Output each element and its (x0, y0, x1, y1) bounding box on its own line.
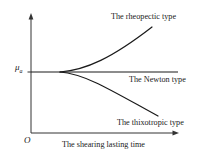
rheology-figure: The rheopectic type The Newton type The … (0, 0, 210, 158)
y-axis-label: μa (15, 63, 23, 74)
x-axis-arrowhead (173, 131, 180, 136)
origin-label: O (24, 136, 31, 145)
y-axis-arrowhead (29, 13, 34, 20)
curve-rheopectic-type (60, 27, 152, 72)
curve-label-thixotropic: The thixotropic type (117, 119, 184, 127)
x-axis-label: The shearing lasting time (62, 141, 145, 149)
curve-label-newton: The Newton type (129, 76, 186, 84)
y-axis-label-subscript: a (20, 68, 23, 74)
curve-label-rheopectic: The rheopectic type (111, 13, 176, 21)
